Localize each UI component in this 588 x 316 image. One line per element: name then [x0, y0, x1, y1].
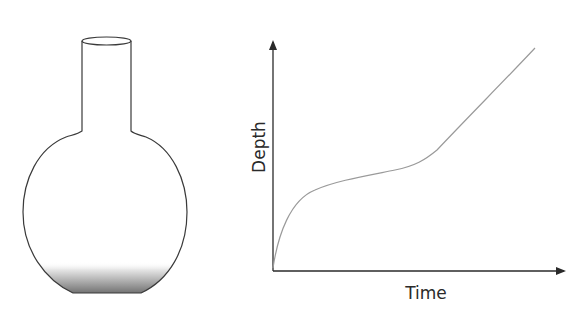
y-axis-label: Depth — [249, 121, 269, 173]
flask-mouth — [82, 37, 131, 45]
x-axis-label: Time — [404, 283, 447, 303]
depth-curve — [273, 48, 535, 268]
sediment-layer — [20, 262, 190, 294]
depth-time-chart: Time Depth — [249, 42, 564, 303]
flask-illustration: Time Depth — [0, 0, 588, 316]
diagram-stage: Time Depth — [0, 0, 588, 316]
flask-outline — [23, 37, 187, 293]
